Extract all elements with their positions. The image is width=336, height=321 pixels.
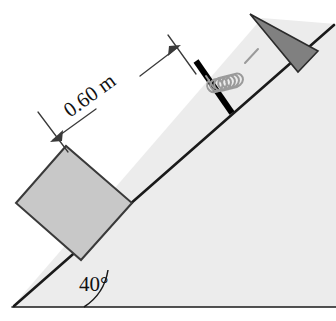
diagram-canvas: 40° 0.60 m [0, 0, 336, 321]
dimension-tick-right [168, 35, 196, 74]
incline-angle-label: 40° [79, 272, 108, 296]
physics-diagram: 40° 0.60 m [0, 0, 336, 321]
dimension-arrowhead-left [50, 130, 63, 142]
